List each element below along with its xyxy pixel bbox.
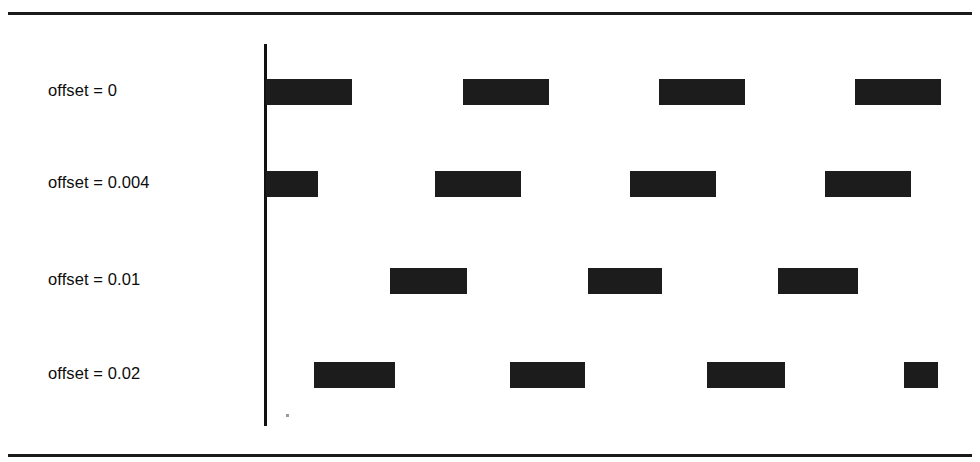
bar-row-1-item-2	[630, 171, 716, 197]
bar-row-2-item-0	[390, 268, 467, 294]
bottom-horizontal-rule	[8, 454, 972, 457]
bar-row-3-item-2	[707, 362, 785, 388]
bar-row-0-item-0	[266, 79, 352, 105]
bar-row-1-item-0	[266, 171, 318, 197]
bar-row-0-item-3	[855, 79, 941, 105]
row-label-offset-0-004: offset = 0.004	[48, 173, 150, 192]
row-label-offset-0: offset = 0	[48, 81, 117, 100]
bar-row-3-item-0	[314, 362, 395, 388]
bar-row-0-item-1	[463, 79, 549, 105]
bar-row-3-item-3	[904, 362, 938, 388]
bar-row-1-item-1	[435, 171, 521, 197]
bar-row-3-item-1	[510, 362, 585, 388]
row-label-offset-0-01: offset = 0.01	[48, 270, 140, 289]
figure-canvas: offset = 0 offset = 0.004 offset = 0.01 …	[0, 0, 980, 462]
bar-row-2-item-2	[778, 268, 858, 294]
scan-speck	[286, 414, 289, 417]
top-horizontal-rule	[8, 12, 972, 15]
bar-row-1-item-3	[825, 171, 911, 197]
bar-row-2-item-1	[588, 268, 662, 294]
bar-row-0-item-2	[659, 79, 745, 105]
row-label-offset-0-02: offset = 0.02	[48, 364, 140, 383]
